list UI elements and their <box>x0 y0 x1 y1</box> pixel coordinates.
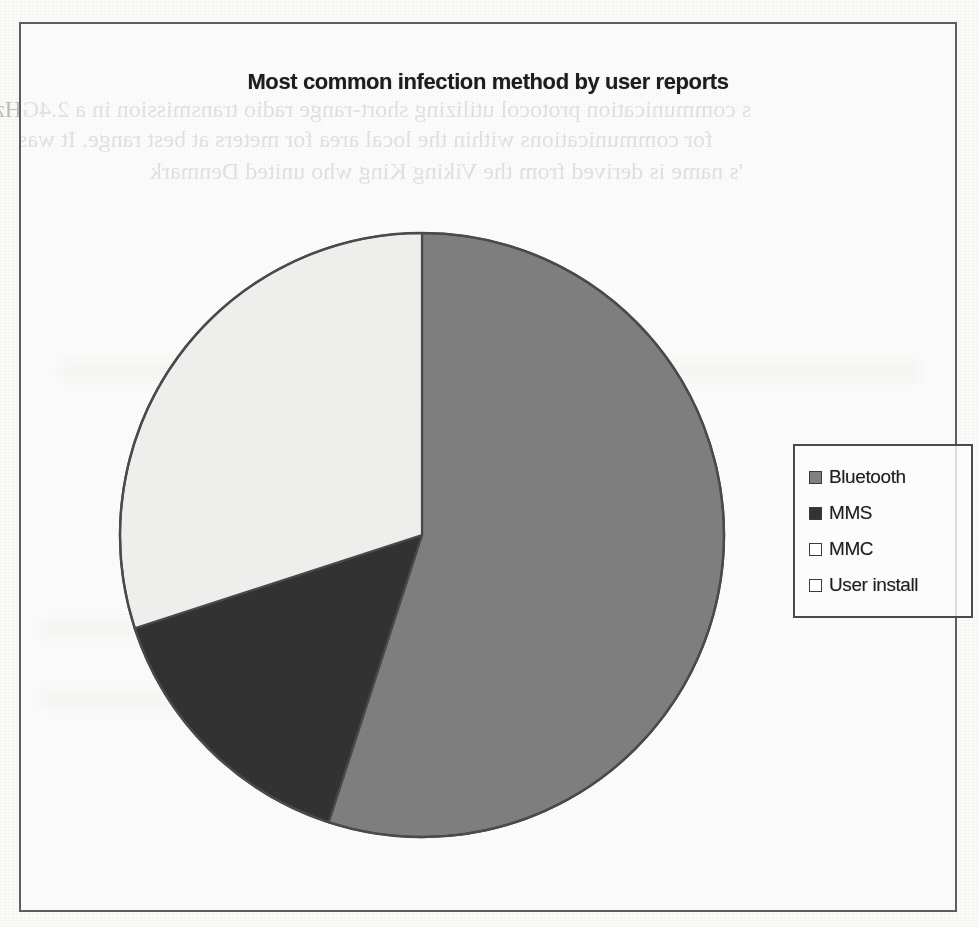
chart-frame: Most common infection method by user rep… <box>19 22 957 912</box>
legend-swatch-mms <box>809 507 822 520</box>
legend-item[interactable]: Bluetooth <box>809 459 961 495</box>
legend-label-mmc: MMC <box>829 538 873 560</box>
legend-swatch-user-install <box>809 579 822 592</box>
pie-chart <box>118 231 726 839</box>
legend-item[interactable]: User install <box>809 567 961 603</box>
pie-slice-group <box>120 233 724 837</box>
legend-item[interactable]: MMC <box>809 531 961 567</box>
legend-swatch-bluetooth <box>809 471 822 484</box>
legend-label-mms: MMS <box>829 502 872 524</box>
legend-swatch-mmc <box>809 543 822 556</box>
chart-legend: Bluetooth MMS MMC User install <box>793 444 973 618</box>
pie-chart-svg <box>118 231 726 839</box>
legend-label-bluetooth: Bluetooth <box>829 466 906 488</box>
legend-label-user-install: User install <box>829 574 918 596</box>
chart-title: Most common infection method by user rep… <box>21 69 955 95</box>
legend-item[interactable]: MMS <box>809 495 961 531</box>
